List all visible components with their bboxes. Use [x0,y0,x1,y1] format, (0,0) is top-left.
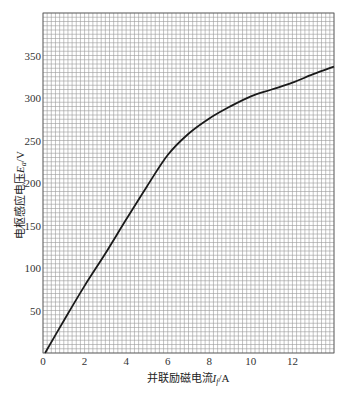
magnetization-chart: 02468101250100150200250300350 并联励磁电流If/A… [0,0,344,395]
y-tick-label: 100 [25,262,42,274]
x-tick-label: 8 [207,355,213,367]
x-tick-label: 2 [82,355,88,367]
y-tick-label: 200 [25,177,42,189]
x-tick-label: 0 [40,355,46,367]
y-tick-label: 150 [25,220,42,232]
y-tick-label: 300 [25,92,42,104]
x-axis-label: 并联励磁电流If/A [147,371,230,386]
y-tick-label: 50 [30,305,42,317]
x-tick-label: 12 [287,355,298,367]
y-axis-label: 电枢感应电压Ea/V [13,151,28,239]
data-curve [45,67,334,353]
x-tick-label: 6 [165,355,171,367]
y-tick-label: 350 [25,50,42,62]
x-tick-label: 10 [245,355,257,367]
plot-grid [43,13,334,353]
x-tick-label: 4 [123,355,129,367]
y-tick-label: 250 [25,135,42,147]
